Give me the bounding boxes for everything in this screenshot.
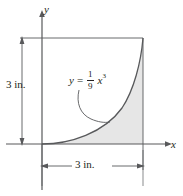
- equation-lhs: y: [69, 75, 74, 86]
- equation-fraction: 1 9: [87, 70, 94, 91]
- equation-equals-sign: =: [77, 75, 83, 86]
- shaded-region: [42, 38, 143, 144]
- dimension-label-horizontal: 3 in.: [75, 159, 95, 170]
- axis-y-label: y: [44, 4, 49, 15]
- dimension-arrow-vertical-bottom: [20, 138, 25, 146]
- figure-container: y x 3 in. 3 in. y = 1 9 x 3: [0, 0, 183, 196]
- equation-exponent: 3: [103, 73, 107, 80]
- dimension-arrow-horizontal-left: [40, 164, 48, 169]
- equation-annotation: y = 1 9 x 3: [69, 70, 106, 91]
- axis-x-label: x: [171, 139, 176, 150]
- dimension-arrow-horizontal-right: [137, 164, 145, 169]
- equation-numerator: 1: [87, 70, 94, 80]
- leader-line: [78, 90, 110, 122]
- dimension-label-vertical: 3 in.: [6, 79, 26, 90]
- equation-denominator: 9: [87, 80, 94, 91]
- dimension-arrow-vertical-top: [20, 36, 25, 44]
